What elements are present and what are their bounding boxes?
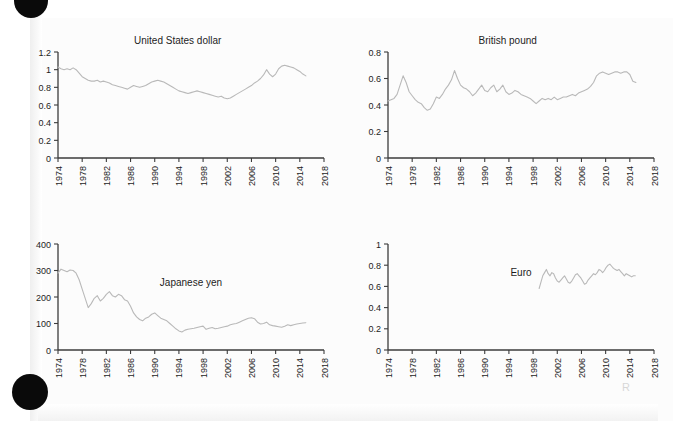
y-tick-label: 0.8 [368,48,381,58]
x-tick-label: 2006 [577,166,587,186]
y-tick-label: 100 [36,319,51,329]
x-tick-label: 2014 [295,166,305,186]
y-tick-label: 300 [36,266,51,276]
x-tick-label: 1990 [150,166,160,186]
chart-title-japanese-yen: Japanese yen [160,277,222,288]
x-tick-label: 2010 [601,358,611,378]
x-tick-label: 2014 [295,358,305,378]
y-tick-label: 0.6 [368,74,381,84]
x-tick-label: 2010 [601,166,611,186]
chart-british-pound: 00.20.40.60.8197419781982198619901994199… [348,30,660,210]
y-tick-label: 0.4 [368,303,381,313]
x-tick-label: 1982 [102,166,112,186]
y-tick-label: 0 [46,154,51,164]
x-tick-label: 2006 [247,166,257,186]
chart-japanese-yen: 0100200300400197419781982198619901994199… [18,222,330,402]
x-tick-label: 1994 [174,358,184,378]
y-tick-label: 0 [46,346,51,356]
x-tick-label: 1994 [504,358,514,378]
y-tick-label: 0.2 [38,136,51,146]
chart-united-states-dollar: 00.20.40.60.811.219741978198219861990199… [18,30,330,210]
y-tick-label: 1 [376,240,381,250]
x-tick-label: 2018 [320,358,330,378]
series-line-united-states-dollar [58,65,306,99]
x-tick-label: 1978 [78,358,88,378]
x-tick-label: 1986 [126,166,136,186]
x-tick-label: 2006 [577,358,587,378]
x-tick-label: 2018 [320,166,330,186]
y-tick-label: 0.8 [38,83,51,93]
x-tick-label: 1982 [432,358,442,378]
plot-area-british-pound: 00.20.40.60.8197419781982198619901994199… [348,30,660,210]
y-tick-label: 0 [376,346,381,356]
x-tick-label: 1998 [199,166,209,186]
chart-title-british-pound: British pound [479,35,537,46]
x-tick-label: 2002 [223,358,233,378]
x-tick-label: 1978 [408,358,418,378]
x-tick-label: 1990 [480,358,490,378]
y-tick-label: 0.4 [368,101,381,111]
y-tick-label: 0 [376,154,381,164]
x-tick-label: 1974 [54,166,64,186]
plot-area-united-states-dollar: 00.20.40.60.811.219741978198219861990199… [18,30,330,210]
y-tick-label: 0.6 [38,101,51,111]
x-tick-label: 2014 [625,358,635,378]
x-tick-label: 1974 [54,358,64,378]
x-tick-label: 2018 [650,166,660,186]
plot-area-japanese-yen: 0100200300400197419781982198619901994199… [18,222,330,402]
x-tick-label: 2010 [271,166,281,186]
x-tick-label: 2014 [625,166,635,186]
y-tick-label: 200 [36,293,51,303]
scanned-page: R 00.20.40.60.811.2197419781982198619901… [0,0,673,421]
x-tick-label: 1998 [529,358,539,378]
y-tick-label: 0.6 [368,282,381,292]
x-tick-label: 1982 [102,358,112,378]
series-line-british-pound [388,71,636,111]
chart-title-united-states-dollar: United States dollar [134,35,222,46]
x-tick-label: 2010 [271,358,281,378]
x-tick-label: 1974 [384,166,394,186]
x-tick-label: 1994 [504,166,514,186]
y-tick-label: 0.2 [368,127,381,137]
x-tick-label: 2002 [223,166,233,186]
x-tick-label: 2006 [247,358,257,378]
x-tick-label: 1978 [78,166,88,186]
x-tick-label: 1986 [456,358,466,378]
x-tick-label: 2018 [650,358,660,378]
y-tick-label: 0.8 [368,261,381,271]
x-tick-label: 1978 [408,166,418,186]
x-tick-label: 2002 [553,358,563,378]
chart-euro: 00.20.40.60.8119741978198219861990199419… [348,222,660,402]
y-tick-label: 0.4 [38,118,51,128]
y-tick-label: 1.2 [38,48,51,58]
chart-grid-2x2: 00.20.40.60.811.219741978198219861990199… [0,0,673,421]
x-tick-label: 1974 [384,358,394,378]
y-tick-label: 0.2 [368,324,381,334]
x-tick-label: 1998 [199,358,209,378]
x-tick-label: 1982 [432,166,442,186]
x-tick-label: 2002 [553,166,563,186]
series-line-euro [539,264,635,288]
x-tick-label: 1990 [480,166,490,186]
x-tick-label: 1990 [150,358,160,378]
x-tick-label: 1986 [456,166,466,186]
y-tick-label: 400 [36,240,51,250]
x-tick-label: 1994 [174,166,184,186]
y-tick-label: 1 [46,65,51,75]
chart-title-euro: Euro [510,267,532,278]
x-tick-label: 1986 [126,358,136,378]
plot-area-euro: 00.20.40.60.8119741978198219861990199419… [348,222,660,402]
x-tick-label: 1998 [529,166,539,186]
